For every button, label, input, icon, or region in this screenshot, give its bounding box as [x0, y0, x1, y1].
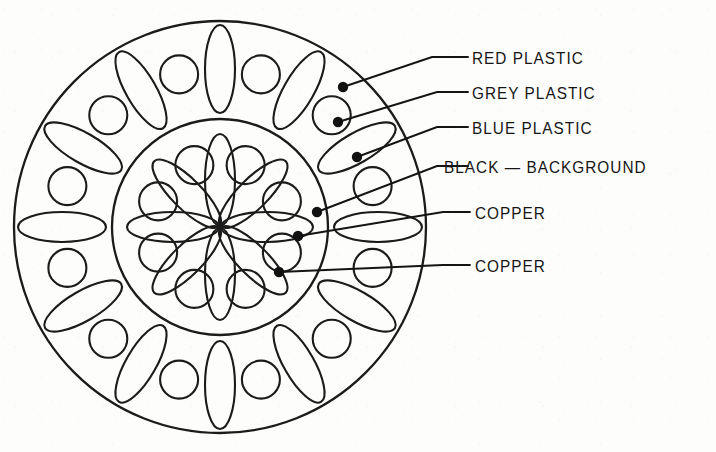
outer-ring-circle [242, 55, 280, 93]
inner-ring-circle [139, 234, 177, 272]
inner-ring-circle [227, 146, 265, 184]
callout-label-grey-plastic: GREY PLASTIC [472, 85, 596, 102]
leader-line-copper-lower [279, 265, 470, 272]
callout-dot-grey-plastic [333, 117, 343, 127]
leader-line-copper-upper [298, 212, 470, 236]
outer-ring-circle [313, 96, 351, 134]
inner-ring-elements [127, 134, 313, 320]
callout-label-copper-upper: COPPER [475, 205, 546, 222]
inner-ring-petal [127, 212, 219, 242]
outer-ring-circle [48, 167, 86, 205]
outer-ring-circle [89, 96, 127, 134]
outer-ring-ellipse [311, 113, 402, 183]
outer-ring-ellipse [311, 271, 402, 341]
inner-ring-circle [139, 182, 177, 220]
outer-ring-circle [242, 361, 280, 399]
inner-ring-circle [227, 270, 265, 308]
callout-dot-blue-plastic [352, 152, 362, 162]
callout-label-black-background: BLACK — BACKGROUND [444, 159, 647, 176]
leader-line-red-plastic [343, 57, 468, 87]
callout-label-red-plastic: RED PLASTIC [472, 50, 584, 67]
outer-ring-ellipse [264, 45, 334, 136]
outer-ring-ellipse [38, 113, 129, 183]
cross-section-diagram [0, 0, 716, 452]
outer-ring-circle [48, 249, 86, 287]
inner-ring-circle [263, 182, 301, 220]
outer-ring-circle [313, 320, 351, 358]
callout-dot-copper-lower [274, 267, 284, 277]
outer-ring-ellipse [106, 318, 176, 409]
callout-dot-red-plastic [338, 82, 348, 92]
outer-ring-ellipse [18, 212, 106, 242]
callout-label-blue-plastic: BLUE PLASTIC [472, 120, 593, 137]
outer-ring-ellipse [38, 271, 129, 341]
outer-ring-circle [160, 55, 198, 93]
diagram-page: RED PLASTICGREY PLASTICBLUE PLASTICBLACK… [0, 0, 716, 452]
outer-ring-circle [89, 320, 127, 358]
inner-ring-petal [205, 228, 235, 320]
callout-dot-copper-upper [293, 231, 303, 241]
callout-label-copper-lower: COPPER [475, 258, 546, 275]
outer-ring-ellipse [205, 341, 235, 429]
inner-ring-petal [205, 134, 235, 226]
callout-dot-black-background [312, 207, 322, 217]
outer-ring-circle [160, 361, 198, 399]
outer-ring-ellipse [264, 318, 334, 409]
inner-ring-circle [175, 146, 213, 184]
leader-line-grey-plastic [338, 92, 468, 122]
outer-ring-ellipse [205, 25, 235, 113]
inner-ring-circle [175, 270, 213, 308]
outer-ring-ellipse [106, 45, 176, 136]
